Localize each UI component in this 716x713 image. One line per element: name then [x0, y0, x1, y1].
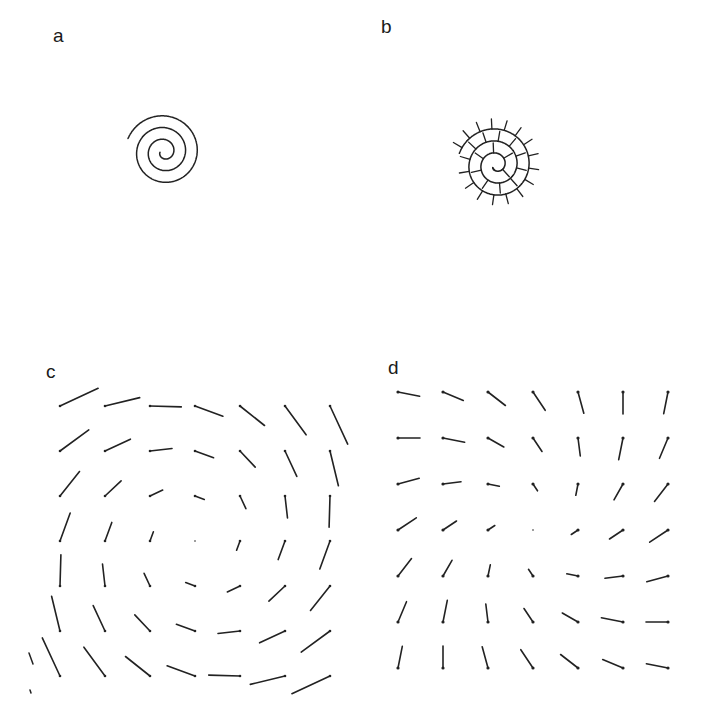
vector-segment [601, 618, 623, 622]
vector-segment [398, 646, 402, 668]
vector-segment [655, 484, 669, 501]
vector-segment [329, 496, 330, 527]
vector-segment [285, 406, 306, 435]
vector-segment [195, 451, 214, 458]
vector-segment [664, 392, 668, 414]
vector-segment [52, 596, 60, 631]
vector-segment-partial [29, 653, 33, 664]
vector-origin [486, 528, 489, 531]
vector-segment [167, 666, 195, 676]
vector-center [194, 540, 196, 542]
vector-origin [104, 675, 107, 678]
vector-origin [531, 436, 534, 439]
vector-segment [150, 449, 172, 452]
vector-segment [240, 406, 265, 426]
vector-origin [531, 620, 534, 623]
spiral-ticks [453, 119, 538, 205]
vector-segment [227, 586, 240, 592]
vector-segment [237, 541, 240, 550]
vector-segment [103, 564, 106, 586]
vector-segment [105, 398, 140, 406]
vector-origin [441, 482, 444, 485]
vector-origin [104, 585, 107, 588]
vector-origin [239, 585, 242, 588]
vector-origin [59, 495, 62, 498]
vector-origin [531, 574, 534, 577]
vector-segment [521, 650, 533, 668]
vector-segment [311, 586, 331, 611]
vector-segment [660, 438, 669, 458]
vector-origin [441, 574, 444, 577]
vector-center [532, 529, 534, 531]
vector-segment [186, 583, 195, 586]
vector-origin [576, 666, 579, 669]
vector-origin [284, 585, 287, 588]
vector-segment [398, 559, 412, 576]
vector-segment [60, 513, 70, 541]
vector-segment [443, 438, 465, 442]
tick-mark [528, 154, 538, 156]
tick-mark [524, 139, 532, 144]
vector-origin [441, 436, 444, 439]
vector-origin [194, 585, 197, 588]
vector-segment [443, 600, 447, 622]
vector-segment [144, 573, 150, 586]
vector-origin [621, 390, 624, 393]
vector-origin [621, 436, 624, 439]
vector-segment [488, 392, 505, 406]
tick-mark [498, 131, 500, 141]
vector-origin [104, 630, 107, 633]
vector-origin [239, 675, 242, 678]
vector-segment [443, 521, 457, 530]
vector-origin [149, 405, 152, 408]
vector-segment [150, 532, 153, 541]
vector-segment [301, 631, 330, 652]
vector-origin [666, 620, 669, 623]
tick-mark [509, 139, 515, 147]
vector-segment [105, 439, 130, 451]
vector-segment [488, 484, 499, 486]
vector-segment [646, 664, 668, 668]
vector-origin [621, 574, 624, 577]
vector-segment [93, 606, 105, 631]
vector-segment [105, 481, 121, 496]
vector-segment [60, 472, 80, 497]
panel-label-c: c [46, 361, 56, 382]
vector-origin [194, 630, 197, 633]
vector-segment [126, 657, 151, 677]
panel-d: d [388, 357, 670, 670]
vector-segment [398, 392, 420, 396]
tick-mark [504, 121, 507, 131]
vector-origin [621, 620, 624, 623]
vector-origin [576, 436, 579, 439]
vector-origin [239, 450, 242, 453]
vector-origin [486, 482, 489, 485]
vector-segment [218, 631, 240, 634]
tick-mark [477, 191, 482, 200]
vector-origin [329, 540, 332, 543]
vector-origin [666, 666, 669, 669]
vector-origin [329, 405, 332, 408]
panel-label-d: d [388, 357, 399, 378]
vector-origin [239, 495, 242, 498]
vector-origin [149, 675, 152, 678]
vector-segment [150, 406, 181, 407]
vector-segment [533, 438, 542, 452]
vector-origin [59, 585, 62, 588]
tick-mark [516, 153, 525, 156]
vector-origin [284, 450, 287, 453]
vector-segment [524, 609, 533, 623]
vector-segment [195, 496, 204, 499]
vector-segment [567, 574, 578, 576]
vector-segment [135, 615, 150, 631]
vector-segment [105, 522, 112, 541]
tick-mark [493, 195, 494, 205]
vector-origin [149, 450, 152, 453]
vector-segment [398, 478, 419, 484]
tick-mark [472, 170, 482, 172]
vector-origin [329, 675, 332, 678]
vector-origin [104, 540, 107, 543]
vector-origin [59, 630, 62, 633]
vector-origin [329, 450, 332, 453]
vector-origin [576, 482, 579, 485]
